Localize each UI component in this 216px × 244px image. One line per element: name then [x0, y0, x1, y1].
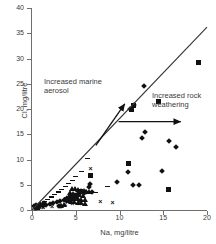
- y-axis-title: Cl, mg/litre: [20, 61, 29, 141]
- scatter-chart: 051015202530354005101520 Increased marin…: [0, 0, 216, 244]
- data-point-x: [62, 202, 68, 208]
- data-point-dash: [66, 183, 71, 184]
- y-tick-label-0: 0: [2, 206, 24, 213]
- data-point-diamond: [167, 138, 173, 144]
- data-point-diamond: [136, 182, 142, 188]
- x-tick-label-15: 15: [153, 214, 173, 222]
- data-point-x: [97, 199, 103, 205]
- data-point-x: [88, 166, 94, 172]
- data-point-triangle: [86, 189, 92, 194]
- data-point-diamond: [142, 129, 148, 135]
- y-tick-label-5: 5: [2, 181, 24, 188]
- annotation-rock-weathering: Increased rock weathering: [152, 92, 210, 109]
- data-point-dash: [105, 186, 110, 187]
- data-point-diamond: [174, 144, 180, 150]
- y-tick-35: [27, 33, 31, 34]
- x-tick-label-5: 5: [66, 214, 86, 222]
- data-point-dash: [63, 186, 68, 187]
- data-point-x: [110, 200, 116, 206]
- data-point-diamond: [160, 168, 166, 174]
- annotation-marine-aerosol: Increased marine aerosol: [44, 78, 114, 95]
- data-point-square: [126, 161, 131, 166]
- data-point-dash: [52, 194, 57, 195]
- data-point-dash: [56, 191, 61, 192]
- plot-area: [32, 8, 207, 210]
- data-point-dash: [85, 158, 90, 159]
- data-point-dash: [36, 204, 41, 205]
- data-point-diamond: [125, 169, 131, 175]
- data-point-dash: [49, 196, 54, 197]
- data-point-dash: [79, 171, 84, 172]
- y-tick-label-40: 40: [2, 4, 24, 11]
- data-point-dash: [70, 180, 75, 181]
- data-point-square: [88, 173, 93, 178]
- data-point-square: [166, 187, 171, 192]
- y-tick-40: [27, 8, 31, 9]
- data-point-diamond: [114, 179, 120, 185]
- x-axis-title: Na, mg/litre: [32, 228, 207, 237]
- data-point-dash: [59, 189, 64, 190]
- data-point-diamond: [130, 182, 136, 188]
- data-point-diamond: [139, 135, 145, 141]
- y-tick-10: [27, 160, 31, 161]
- data-point-x: [56, 204, 62, 210]
- data-point-dash: [93, 192, 98, 193]
- data-point-x: [37, 205, 43, 211]
- data-point-x: [49, 204, 55, 210]
- y-tick-label-35: 35: [2, 29, 24, 36]
- data-point-dash: [73, 176, 78, 177]
- data-point-x: [69, 201, 75, 207]
- y-tick-0: [27, 210, 31, 211]
- data-point-triangle: [82, 201, 88, 206]
- y-tick-5: [27, 185, 31, 186]
- y-tick-label-10: 10: [2, 156, 24, 163]
- x-tick-label-0: 0: [22, 214, 42, 222]
- data-point-square: [196, 60, 201, 65]
- data-point-x: [76, 201, 82, 207]
- y-tick-30: [27, 59, 31, 60]
- data-point-square: [131, 103, 136, 108]
- x-tick-label-10: 10: [110, 214, 130, 222]
- data-point-diamond: [141, 83, 147, 89]
- x-tick-label-20: 20: [197, 214, 216, 222]
